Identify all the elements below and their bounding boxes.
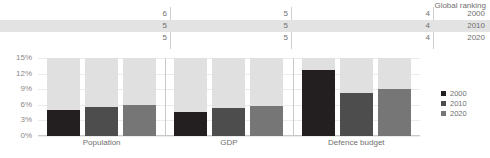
legend-item-2010[interactable]: 2010 [441,100,489,108]
bar-fill [174,112,207,136]
bar-population-2000[interactable] [47,58,80,136]
bar-fill [378,89,411,136]
bar-defence-budget-2020[interactable] [378,58,411,136]
ranking-row: 5 5 4 2020 [0,32,490,44]
bar-group-gdp [165,58,292,136]
bar-population-2020[interactable] [123,58,156,136]
ranking-value-defence: 4 [400,20,430,32]
bar-fill [302,70,335,136]
bar-defence-budget-2000[interactable] [302,58,335,136]
legend-swatch-icon [441,101,446,106]
bar-fill [123,105,156,136]
ranking-row-year: 2010 [437,20,485,32]
bar-fill [250,106,283,136]
bar-fill [47,110,80,136]
y-axis-tick-label: 3% [0,116,32,124]
bar-group-population [38,58,165,136]
legend-label: 2010 [450,100,467,108]
y-axis-tick-label: 15% [0,54,32,62]
y-axis-tick-label: 12% [0,70,32,78]
y-axis-tick-label: 6% [0,101,32,109]
ranking-row-year: 2020 [437,32,485,44]
bar-population-2010[interactable] [85,58,118,136]
bar-gdp-2010[interactable] [212,58,245,136]
bar-fill [85,107,118,136]
bar-group-defence-budget [293,58,420,136]
ranking-row-year: 2000 [437,8,485,20]
bar-fill [340,93,373,136]
bar-gdp-2000[interactable] [174,58,207,136]
ranking-value-population: 5 [137,20,167,32]
global-ranking-table: Global ranking 6 5 4 2000 5 5 4 2010 5 5… [0,8,490,49]
ranking-value-gdp: 5 [258,8,288,20]
legend-item-2000[interactable]: 2000 [441,90,489,98]
legend: 2000 2010 2020 [441,90,489,120]
ranking-row: 5 5 4 2010 [0,20,490,32]
ranking-value-gdp: 5 [258,32,288,44]
legend-item-2020[interactable]: 2020 [441,110,489,118]
bar-fill [212,108,245,136]
ranking-row: 6 5 4 2000 [0,8,490,20]
ranking-value-population: 5 [137,32,167,44]
y-axis-tick-label: 9% [0,85,32,93]
bar-gdp-2020[interactable] [250,58,283,136]
gridline [38,136,420,137]
legend-label: 2020 [450,110,467,118]
chart-root: Global ranking 6 5 4 2000 5 5 4 2010 5 5… [0,0,490,158]
ranking-value-defence: 4 [400,8,430,20]
ranking-value-gdp: 5 [258,20,288,32]
plot-area [38,58,420,136]
ranking-value-population: 6 [137,8,167,20]
ranking-value-defence: 4 [400,32,430,44]
group-label-defence-budget: Defence budget [276,138,436,148]
bar-chart: 15%12%9%6%3%0% Population GDP Defence bu… [0,58,490,158]
legend-label: 2000 [450,90,467,98]
bar-defence-budget-2010[interactable] [340,58,373,136]
legend-swatch-icon [441,91,446,96]
y-axis: 15%12%9%6%3%0% [0,58,36,136]
legend-swatch-icon [441,111,446,116]
